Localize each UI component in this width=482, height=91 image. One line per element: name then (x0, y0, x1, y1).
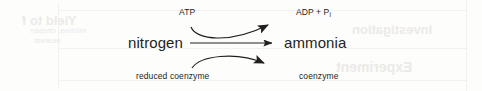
coproduct-label-coenzyme: coenzyme (299, 71, 339, 81)
adp-phosphate-text: ADP + P (296, 7, 329, 17)
atp-consumption-curve (191, 25, 268, 38)
substrate-label: nitrogen (128, 34, 183, 51)
product-label: ammonia (284, 34, 346, 51)
cosubstrate-label-reduced-coenzyme: reduced coenzyme (136, 71, 209, 81)
cosubstrate-label-atp: ATP (179, 7, 195, 17)
reaction-diagram-figure: Yield to f Investigation Experiment mini… (0, 0, 482, 91)
coenzyme-oxidation-curve (192, 56, 264, 68)
phosphate-subscript: i (329, 11, 331, 18)
reaction-arrows (0, 0, 482, 91)
coproduct-label-adp-phosphate: ADP + Pi (296, 7, 331, 17)
